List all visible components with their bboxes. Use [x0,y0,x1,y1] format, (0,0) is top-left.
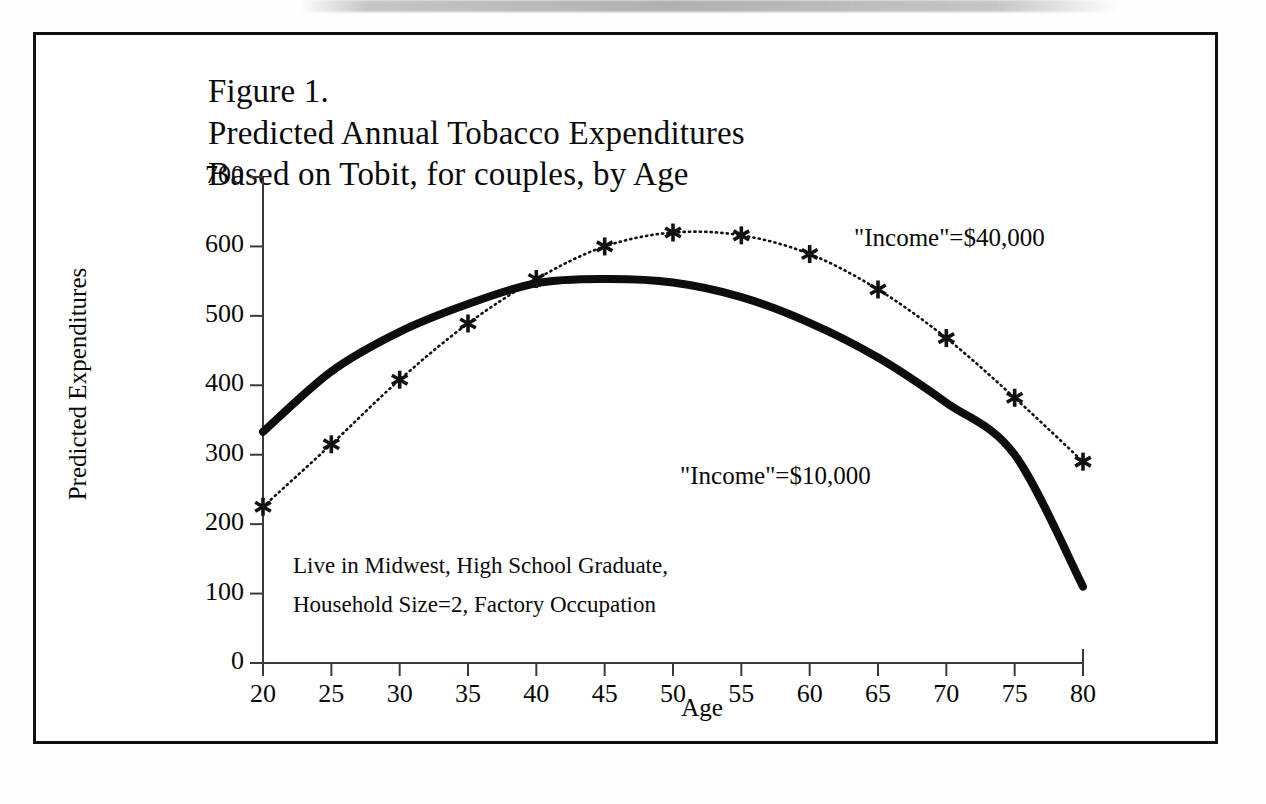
document-page: Figure 1. Predicted Annual Tobacco Expen… [0,0,1266,804]
figure-title-line-1: Figure 1. [208,71,1028,113]
figure-frame: Figure 1. Predicted Annual Tobacco Expen… [33,32,1218,744]
figure-title-line-2: Predicted Annual Tobacco Expenditures [208,113,1028,155]
scan-artifact [300,0,1120,12]
figure-title: Figure 1. Predicted Annual Tobacco Expen… [208,71,1028,196]
figure-title-line-3: Based on Tobit, for couples, by Age [208,154,1028,196]
